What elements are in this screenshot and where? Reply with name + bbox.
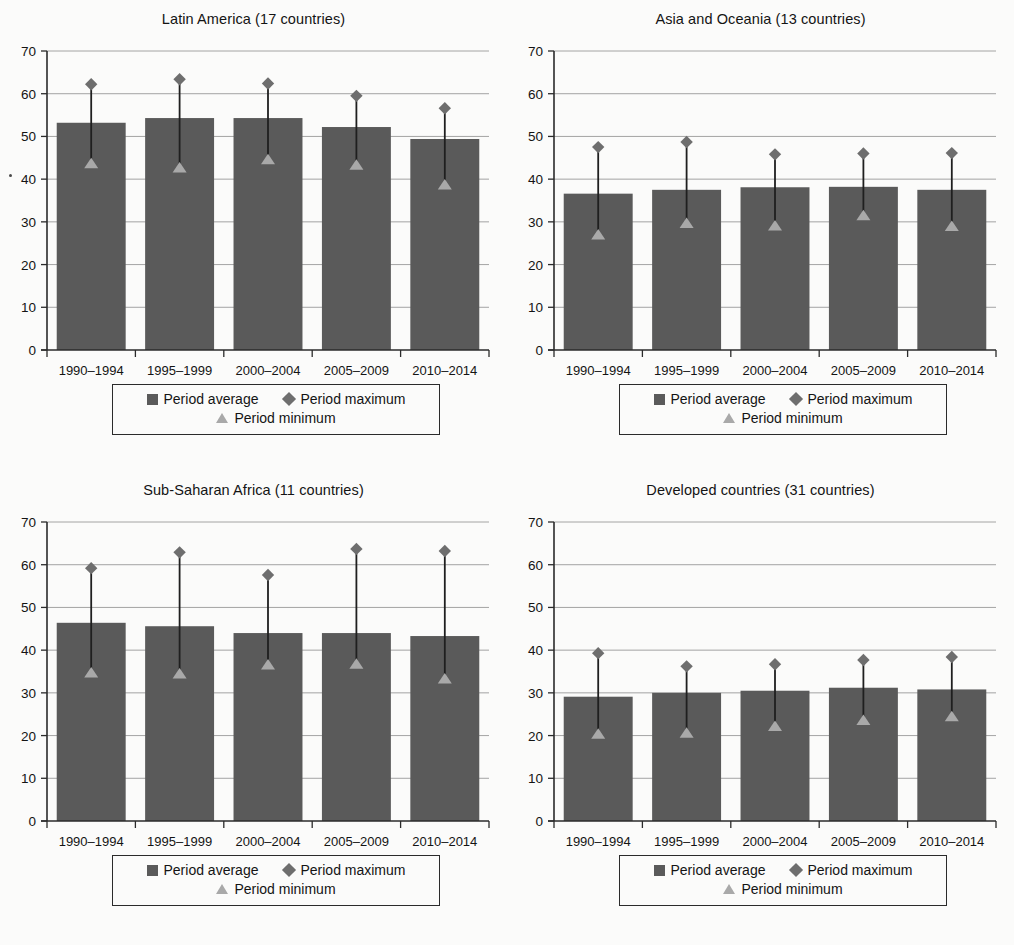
marker-period-maximum [350,90,362,102]
legend-row-secondary: Period minimum [620,409,946,428]
legend-row-primary: Period average Period maximum [113,861,439,880]
legend-label-minimum: Period minimum [234,409,335,428]
marker-period-maximum [680,660,692,672]
marker-period-maximum [350,543,362,555]
x-category-label: 1995–1999 [147,363,212,378]
filled-square-icon [654,865,665,876]
legend-label-maximum: Period maximum [807,390,912,409]
marker-period-maximum [173,73,185,85]
legend-item-minimum: Period minimum [723,409,842,428]
triangle-icon [723,884,735,894]
x-category-label: 2010–2014 [412,834,477,849]
chart-panel-developed-countries: Developed countries (31 countries) 01020… [507,471,1014,943]
y-tick-label: 20 [528,729,543,744]
y-tick-label: 20 [21,729,36,744]
marker-period-maximum [592,141,604,153]
x-category-label: 2005–2009 [831,834,896,849]
legend-label-average: Period average [671,390,766,409]
legend-label-minimum: Period minimum [741,409,842,428]
legend-label-maximum: Period maximum [300,390,405,409]
marker-period-maximum [439,545,451,557]
y-tick-label: 40 [21,172,36,187]
y-tick-label: 10 [528,771,543,786]
y-tick-label: 50 [21,129,36,144]
plot-area: 0102030405060701990–19941995–19992000–20… [507,471,1014,871]
x-category-label: 2010–2014 [919,363,984,378]
marker-period-maximum [946,147,958,159]
x-category-label: 2000–2004 [742,834,807,849]
chart-legend: Period average Period maximum Period min… [619,855,947,906]
marker-period-maximum [946,651,958,663]
marker-period-maximum [262,77,274,89]
legend-item-maximum: Period maximum [791,390,912,409]
filled-square-icon [147,865,158,876]
y-tick-label: 30 [21,215,36,230]
legend-item-average: Period average [654,390,766,409]
legend-row-secondary: Period minimum [113,409,439,428]
x-category-label: 1990–1994 [566,363,631,378]
legend-label-minimum: Period minimum [234,880,335,899]
marker-period-maximum [769,148,781,160]
y-tick-label: 60 [21,558,36,573]
x-category-label: 2005–2009 [324,834,389,849]
legend-item-minimum: Period minimum [723,880,842,899]
marker-period-maximum [85,78,97,90]
marker-period-maximum [262,569,274,581]
marker-period-maximum [769,658,781,670]
y-tick-label: 10 [21,771,36,786]
legend-item-average: Period average [654,861,766,880]
legend-label-minimum: Period minimum [741,880,842,899]
x-category-label: 2000–2004 [235,834,300,849]
marker-period-maximum [85,562,97,574]
x-category-label: 1990–1994 [59,363,124,378]
plot-area: 0102030405060701990–19941995–19992000–20… [507,0,1014,400]
x-category-label: 1995–1999 [147,834,212,849]
x-category-label: 2005–2009 [324,363,389,378]
marker-period-maximum [857,147,869,159]
chart-panel-latin-america: Latin America (17 countries) 01020304050… [0,0,507,472]
y-tick-label: 30 [528,215,543,230]
diamond-icon [789,392,803,406]
y-tick-label: 0 [535,814,543,829]
diamond-icon [282,392,296,406]
y-tick-label: 40 [528,172,543,187]
x-category-label: 1995–1999 [654,834,719,849]
triangle-icon [216,413,228,423]
legend-label-average: Period average [671,861,766,880]
x-category-label: 2010–2014 [919,834,984,849]
y-tick-label: 50 [528,129,543,144]
y-tick-label: 10 [21,300,36,315]
legend-row-primary: Period average Period maximum [620,390,946,409]
y-tick-label: 30 [21,686,36,701]
legend-row-primary: Period average Period maximum [620,861,946,880]
legend-row-secondary: Period minimum [620,880,946,899]
marker-period-maximum [439,102,451,114]
legend-item-maximum: Period maximum [284,861,405,880]
y-tick-label: 0 [28,343,36,358]
x-category-label: 2010–2014 [412,363,477,378]
y-tick-label: 70 [21,515,36,530]
y-tick-label: 40 [21,643,36,658]
filled-square-icon [654,394,665,405]
legend-row-secondary: Period minimum [113,880,439,899]
chart-panel-asia-and-oceania: Asia and Oceania (13 countries) 01020304… [507,0,1014,472]
diamond-icon [789,863,803,877]
y-tick-label: 40 [528,643,543,658]
filled-square-icon [147,394,158,405]
y-tick-label: 20 [528,258,543,273]
plot-area: 0102030405060701990–19941995–19992000–20… [0,471,507,871]
marker-period-maximum [857,654,869,666]
triangle-icon [216,884,228,894]
chart-svg: 0102030405060701990–19941995–19992000–20… [0,0,507,400]
y-tick-label: 50 [21,600,36,615]
marker-period-maximum [680,136,692,148]
chart-svg: 0102030405060701990–19941995–19992000–20… [0,471,507,871]
x-category-label: 1990–1994 [566,834,631,849]
scan-artifact-dot [9,174,12,177]
chart-legend: Period average Period maximum Period min… [619,384,947,435]
legend-row-primary: Period average Period maximum [113,390,439,409]
y-tick-label: 0 [535,343,543,358]
y-tick-label: 10 [528,300,543,315]
y-tick-label: 70 [528,515,543,530]
x-category-label: 2000–2004 [235,363,300,378]
